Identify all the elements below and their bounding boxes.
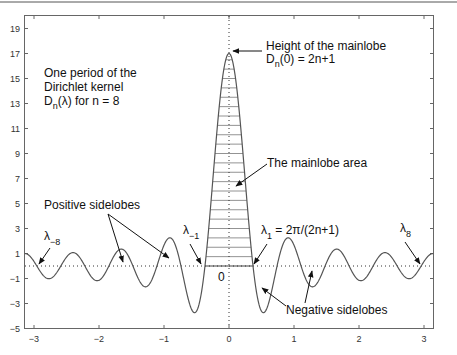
mainlobe-hatching [205, 60, 253, 266]
y-tick-label: 11 [11, 124, 20, 134]
arrow-neg-1 [262, 288, 286, 306]
annotation-period-3: Dn(λ) for n = 8 [44, 94, 120, 111]
y-tick-label: 17 [10, 49, 20, 59]
annotation-negative-sidelobes: Negative sidelobes [286, 303, 387, 317]
label-lambda-m8: λ−8 [44, 229, 60, 247]
label-lambda-m1: λ−1 [183, 223, 199, 241]
annotation-height-2: Dn(0) = 2n+1 [266, 52, 335, 69]
annotation-area: The mainlobe area [267, 156, 367, 170]
label-zero: 0 [218, 270, 225, 284]
y-tick-label: −5 [10, 324, 20, 334]
x-tick-label: 1 [291, 334, 296, 344]
y-tick-label: 9 [15, 149, 20, 159]
x-tick-label: −2 [94, 334, 104, 344]
dirichlet-kernel-chart: −3−2−10123−5−3−1135791113151719 One peri… [0, 0, 457, 355]
y-tick-label: −1 [10, 274, 20, 284]
x-tick-label: 2 [356, 334, 361, 344]
x-tick-label: 3 [421, 334, 426, 344]
y-tick-label: 5 [15, 199, 20, 209]
arrow-area [236, 164, 267, 186]
x-tick-label: 0 [226, 334, 231, 344]
x-tick-label: −3 [29, 334, 39, 344]
annotation-period-2: Dirichlet kernel [44, 80, 123, 94]
y-tick-label: −3 [10, 299, 20, 309]
y-tick-label: 19 [10, 24, 20, 34]
arrow-pos-1 [108, 214, 123, 262]
arrow-lambda-1 [254, 244, 267, 264]
arrow-lambda-m1 [190, 244, 201, 264]
y-tick-label: 3 [15, 224, 20, 234]
label-lambda-8: λ8 [400, 221, 411, 239]
y-tick-label: 7 [15, 174, 20, 184]
y-tick-label: 1 [15, 249, 20, 259]
annotation-positive-sidelobes: Positive sidelobes [44, 198, 140, 212]
x-tick-label: −1 [159, 334, 169, 344]
label-lambda-1: λ1 = 2π/(2n+1) [261, 223, 339, 241]
annotation-height: Height of the mainlobe [266, 39, 386, 53]
arrow-lambda-8 [405, 242, 420, 264]
arrow-lambda-m8 [39, 248, 50, 264]
y-tick-label: 13 [10, 99, 20, 109]
y-tick-label: 15 [10, 74, 20, 84]
annotation-period: One period of the [44, 66, 137, 80]
